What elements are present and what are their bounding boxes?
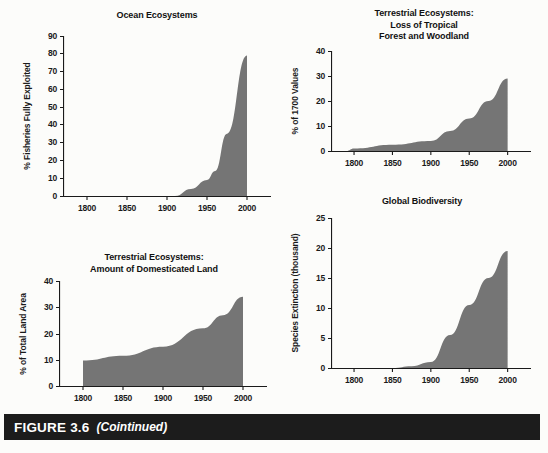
chart-svg-loss-of-tropical-forest <box>331 51 535 165</box>
y-tick-label: 70 <box>34 66 60 76</box>
figure-continued-note: (Cointinued) <box>97 420 168 434</box>
x-tick-label: 1950 <box>460 158 478 168</box>
y-tick-label: 20 <box>30 329 56 339</box>
chart-title-domesticated-land: Terrestrial Ecosystems: Amount of Domest… <box>44 252 264 275</box>
y-tick-label: 0 <box>302 146 328 156</box>
x-tick-label: 1900 <box>158 203 176 213</box>
plot-area-ocean-ecosystems: % Fisheries Fully Exploited 010203040506… <box>18 22 268 212</box>
x-tick-label: 2000 <box>499 158 517 168</box>
x-tick-label: 1800 <box>74 393 92 403</box>
x-axis-ticks-ocean-ecosystems: 18001850190019502000 <box>63 202 263 214</box>
y-tick-label: 20 <box>302 243 328 253</box>
y-tick-label: 20 <box>34 155 60 165</box>
series-area-loss-of-tropical-forest <box>331 51 535 169</box>
x-tick-label: 2000 <box>234 393 252 403</box>
y-tick-label: 20 <box>302 96 328 106</box>
y-tick-label: 10 <box>30 355 56 365</box>
y-tick-label: 0 <box>302 363 328 373</box>
y-tick-label: 5 <box>302 333 328 343</box>
y-tick-label: 10 <box>34 173 60 183</box>
x-tick-label: 2000 <box>238 203 256 213</box>
y-tick-label: 40 <box>34 119 60 129</box>
y-axis-label-text: Species Extinction (thousand) <box>290 233 300 352</box>
y-tick-label: 10 <box>302 303 328 313</box>
chart-panel-domesticated-land: Terrestrial Ecosystems: Amount of Domest… <box>14 252 270 412</box>
plot-area-loss-of-tropical-forest: % of 1700 Values 010203040 1800185019001… <box>288 43 538 178</box>
x-tick-label: 1900 <box>154 393 172 403</box>
chart-title-loss-of-tropical-forest: Terrestrial Ecosystems: Loss of Tropical… <box>324 8 524 43</box>
y-tick-label: 80 <box>34 48 60 58</box>
y-tick-label: 50 <box>34 102 60 112</box>
x-axis-ticks-loss-of-tropical-forest: 18001850190019502000 <box>331 157 523 169</box>
x-tick-label: 2000 <box>499 375 517 385</box>
x-tick-label: 1950 <box>198 203 216 213</box>
series-area-ocean-ecosystems <box>63 36 275 214</box>
chart-svg-domesticated-land <box>59 281 271 400</box>
y-tick-label: 0 <box>30 381 56 391</box>
y-axis-ticks-global-biodiversity: 0510152025 <box>302 218 328 368</box>
y-tick-label: 30 <box>30 302 56 312</box>
x-tick-label: 1850 <box>118 203 136 213</box>
y-axis-label-text: % of Total Land Area <box>18 293 28 375</box>
y-tick-label: 30 <box>302 71 328 81</box>
series-fill <box>83 297 243 386</box>
x-tick-label: 1800 <box>78 203 96 213</box>
y-axis-ticks-loss-of-tropical-forest: 010203040 <box>302 51 328 151</box>
figure-caption-bar: FIGURE 3.6 (Cointinued) <box>4 414 540 440</box>
y-axis-label-loss-of-tropical-forest: % of 1700 Values <box>288 51 302 151</box>
x-axis-ticks-global-biodiversity: 18001850190019502000 <box>331 374 523 386</box>
chart-svg-global-biodiversity <box>331 218 535 382</box>
y-axis-label-text: % Fisheries Fully Exploited <box>22 62 32 169</box>
plot-area-global-biodiversity: Species Extinction (thousand) 0510152025… <box>288 208 540 393</box>
y-tick-label: 15 <box>302 273 328 283</box>
x-tick-label: 1850 <box>114 393 132 403</box>
x-tick-label: 1850 <box>383 375 401 385</box>
x-tick-label: 1950 <box>460 375 478 385</box>
figure-label: FIGURE 3.6 <box>14 420 90 435</box>
x-tick-label: 1950 <box>194 393 212 403</box>
series-area-domesticated-land <box>59 281 271 404</box>
x-tick-label: 1900 <box>422 375 440 385</box>
y-tick-label: 60 <box>34 84 60 94</box>
y-axis-label-ocean-ecosystems: % Fisheries Fully Exploited <box>20 36 34 196</box>
x-tick-label: 1900 <box>422 158 440 168</box>
figure-page: Ocean Ecosystems % Fisheries Fully Explo… <box>0 0 548 453</box>
chart-title-ocean-ecosystems: Ocean Ecosystems <box>52 10 262 22</box>
y-axis-ticks-ocean-ecosystems: 0102030405060708090 <box>34 36 60 196</box>
chart-panel-global-biodiversity: Global Biodiversity Species Extinction (… <box>288 196 540 411</box>
y-tick-label: 25 <box>302 213 328 223</box>
x-tick-label: 1800 <box>345 158 363 168</box>
series-area-global-biodiversity <box>331 218 535 386</box>
y-axis-ticks-domesticated-land: 010203040 <box>30 281 56 386</box>
y-tick-label: 90 <box>34 31 60 41</box>
series-fill <box>346 78 507 151</box>
plot-area-domesticated-land: % of Total Land Area 010203040 180018501… <box>14 275 270 407</box>
y-tick-label: 40 <box>30 276 56 286</box>
chart-panel-ocean-ecosystems: Ocean Ecosystems % Fisheries Fully Explo… <box>18 10 268 225</box>
x-tick-label: 1850 <box>383 158 401 168</box>
series-fill <box>354 251 508 368</box>
y-axis-label-domesticated-land: % of Total Land Area <box>16 281 30 386</box>
y-tick-label: 0 <box>34 191 60 201</box>
x-tick-label: 1800 <box>345 375 363 385</box>
chart-title-global-biodiversity: Global Biodiversity <box>322 196 522 208</box>
chart-panel-loss-of-tropical-forest: Terrestrial Ecosystems: Loss of Tropical… <box>288 8 538 188</box>
y-tick-label: 30 <box>34 137 60 147</box>
y-axis-label-global-biodiversity: Species Extinction (thousand) <box>288 218 302 368</box>
series-fill <box>87 55 247 195</box>
y-tick-label: 10 <box>302 121 328 131</box>
chart-svg-ocean-ecosystems <box>63 36 275 210</box>
y-axis-label-text: % of 1700 Values <box>290 67 300 134</box>
x-axis-ticks-domesticated-land: 18001850190019502000 <box>59 392 259 404</box>
y-tick-label: 40 <box>302 46 328 56</box>
